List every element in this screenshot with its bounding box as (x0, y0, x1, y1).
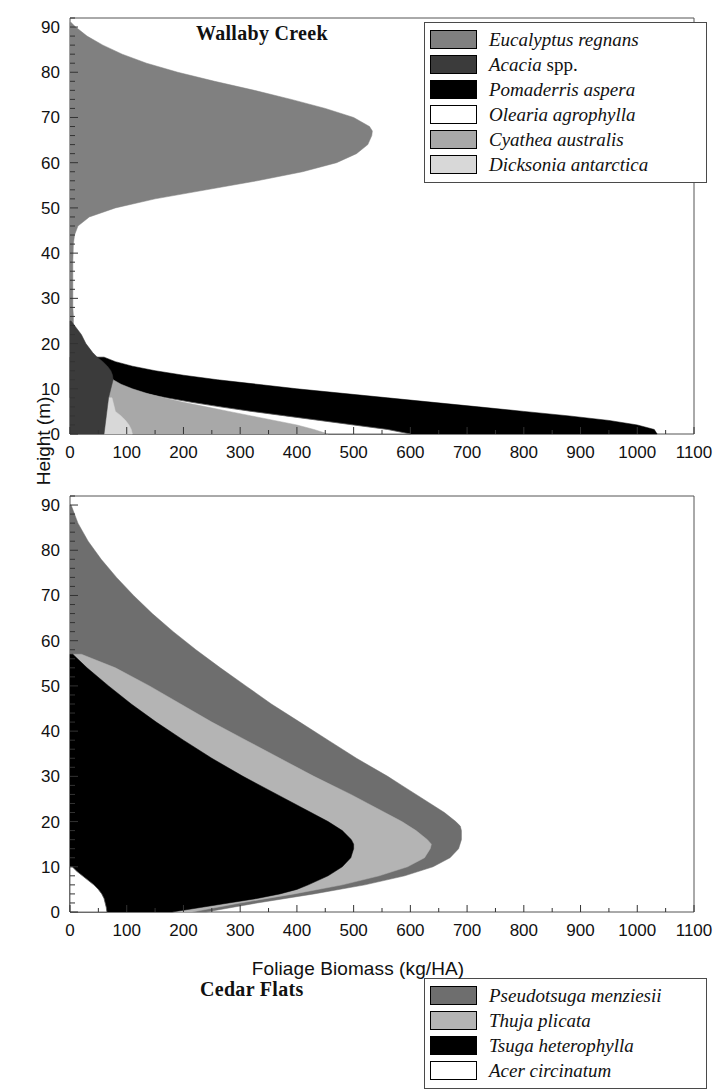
legend-swatch (430, 1011, 477, 1030)
legend-item: Dicksonia antarctica (430, 152, 698, 177)
x-axis-title: Foliage Biomass (kg/HA) (0, 958, 716, 980)
y-tick-label: 90 (41, 18, 60, 37)
y-tick-label: 80 (41, 63, 60, 82)
y-tick-label: 10 (41, 858, 60, 877)
x-tick-label: 500 (339, 443, 367, 462)
x-tick-label: 300 (226, 443, 254, 462)
x-tick-label: 700 (453, 921, 481, 940)
legend-label: Cyathea australis (489, 130, 624, 149)
y-tick-label: 60 (41, 632, 60, 651)
y-tick-label: 50 (41, 677, 60, 696)
x-tick-label: 100 (113, 921, 141, 940)
legend-label: Thuja plicata (489, 1011, 591, 1030)
x-tick-label: 200 (169, 443, 197, 462)
legend-swatch (430, 55, 477, 74)
y-tick-label: 60 (41, 154, 60, 173)
y-tick-label: 20 (41, 335, 60, 354)
legend-item: Acacia spp. (430, 52, 698, 77)
chart-panel-wallaby-creek: 0100200300400500600700800900100011000102… (0, 0, 716, 470)
x-tick-label: 400 (283, 443, 311, 462)
legend-swatch (430, 1061, 477, 1080)
y-tick-label: 30 (41, 289, 60, 308)
x-tick-label: 900 (566, 921, 594, 940)
y-tick-label: 0 (51, 903, 60, 922)
legend-item: Pseudotsuga menziesii (430, 983, 698, 1008)
y-axis-title: Height (m) (33, 361, 55, 521)
legend-item: Acer circinatum (430, 1058, 698, 1083)
x-tick-label: 700 (453, 443, 481, 462)
x-tick-label: 100 (113, 443, 141, 462)
legend-swatch (430, 105, 477, 124)
legend-item: Thuja plicata (430, 1008, 698, 1033)
legend-swatch (430, 155, 477, 174)
legend-item: Olearia agrophylla (430, 102, 698, 127)
y-tick-label: 20 (41, 813, 60, 832)
legend-label: Pomaderris aspera (489, 80, 635, 99)
y-tick-label: 40 (41, 244, 60, 263)
y-tick-label: 40 (41, 722, 60, 741)
y-tick-label: 80 (41, 541, 60, 560)
x-tick-label: 800 (510, 921, 538, 940)
y-tick-label: 30 (41, 767, 60, 786)
legend-swatch (430, 1036, 477, 1055)
legend-label: Dicksonia antarctica (489, 155, 648, 174)
x-tick-label: 0 (65, 921, 74, 940)
x-tick-label: 400 (283, 921, 311, 940)
x-tick-label: 300 (226, 921, 254, 940)
y-tick-label: 50 (41, 199, 60, 218)
legend-item: Tsuga heterophylla (430, 1033, 698, 1058)
x-tick-label: 1000 (618, 443, 656, 462)
legend-wallaby-creek: Eucalyptus regnansAcacia spp.Pomaderris … (424, 22, 707, 183)
panel-title-wallaby-creek: Wallaby Creek (196, 22, 328, 45)
x-tick-label: 1000 (618, 921, 656, 940)
x-tick-label: 500 (339, 921, 367, 940)
panel-title-cedar-flats: Cedar Flats (200, 978, 303, 1001)
legend-label: Acacia spp. (489, 55, 578, 74)
legend-label: Acer circinatum (489, 1061, 611, 1080)
y-tick-label: 70 (41, 586, 60, 605)
legend-item: Cyathea australis (430, 127, 698, 152)
plot-area-cedar-flats: 0100200300400500600700800900100011000102… (0, 478, 716, 948)
x-tick-label: 800 (510, 443, 538, 462)
legend-item: Pomaderris aspera (430, 77, 698, 102)
x-tick-label: 1100 (676, 921, 713, 940)
legend-swatch (430, 986, 477, 1005)
legend-item: Eucalyptus regnans (430, 27, 698, 52)
legend-label: Olearia agrophylla (489, 105, 636, 124)
x-tick-label: 0 (65, 443, 74, 462)
legend-swatch (430, 130, 477, 149)
chart-panel-cedar-flats: 0100200300400500600700800900100011000102… (0, 478, 716, 948)
legend-swatch (430, 30, 477, 49)
y-tick-label: 70 (41, 108, 60, 127)
legend-label: Pseudotsuga menziesii (489, 986, 662, 1005)
legend-cedar-flats: Pseudotsuga menziesiiThuja plicataTsuga … (424, 978, 707, 1089)
x-tick-label: 900 (566, 443, 594, 462)
legend-label: Eucalyptus regnans (489, 30, 639, 49)
x-tick-label: 600 (396, 921, 424, 940)
legend-label: Tsuga heterophylla (489, 1036, 634, 1055)
x-tick-label: 1100 (676, 443, 713, 462)
x-tick-label: 200 (169, 921, 197, 940)
legend-swatch (430, 80, 477, 99)
x-tick-label: 600 (396, 443, 424, 462)
